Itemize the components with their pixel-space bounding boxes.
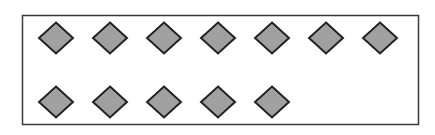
counting-diagram: [0, 0, 435, 135]
